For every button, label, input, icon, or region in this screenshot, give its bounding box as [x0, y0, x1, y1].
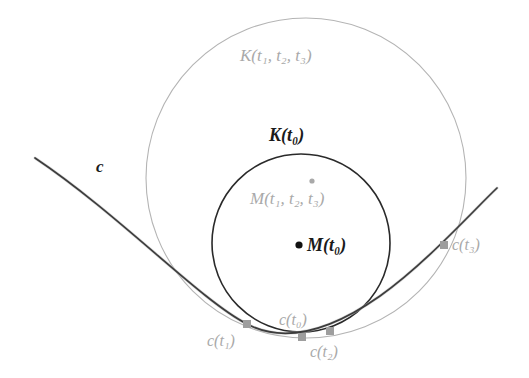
label-point-t2: c(t₂) — [310, 344, 338, 360]
label-center-outer-args: (t₁, t₂, t₃) — [264, 189, 324, 208]
label-center-outer-base: M — [250, 189, 264, 208]
label-point-t2-args: (t₂) — [317, 343, 338, 360]
label-center-inner-args: (t₀) — [323, 235, 346, 255]
point-marker-c-t0 — [298, 333, 306, 341]
label-point-t1-args: (t₁) — [214, 332, 235, 349]
point-marker-m-t1t2t3 — [309, 178, 314, 183]
label-point-t3: c(t₃) — [452, 237, 480, 253]
point-marker-c-t3 — [440, 241, 448, 249]
label-point-t0: c(t₀) — [279, 312, 307, 328]
label-center-inner-base: M — [307, 235, 323, 255]
label-curve-base: c — [96, 157, 104, 176]
label-circle-outer-base: K — [240, 46, 251, 65]
osculating-circle-figure: K(t₁, t₂, t₃) K(t₀) M(t₁, t₂, t₃) M(t₀) … — [0, 0, 529, 378]
point-marker-m-t0 — [295, 241, 302, 248]
label-circle-inner-args: (t₀) — [281, 125, 304, 145]
point-marker-c-t1 — [243, 320, 251, 328]
label-point-t3-args: (t₃) — [459, 236, 480, 253]
point-marker-c-t2 — [326, 327, 334, 335]
label-point-t1: c(t₁) — [207, 333, 235, 349]
label-circle-outer: K(t₁, t₂, t₃) — [240, 47, 312, 64]
curve-c — [35, 158, 497, 333]
curve-c-shadow — [35, 158, 497, 333]
label-center-inner: M(t₀) — [307, 236, 346, 254]
label-circle-outer-args: (t₁, t₂, t₃) — [251, 46, 311, 65]
circle-outer-k-t1t2t3 — [146, 18, 466, 338]
label-circle-inner-base: K — [269, 125, 281, 145]
label-curve: c — [96, 158, 104, 175]
label-point-t0-args: (t₀) — [286, 311, 307, 328]
label-center-outer: M(t₁, t₂, t₃) — [250, 190, 324, 207]
label-circle-inner: K(t₀) — [269, 126, 304, 144]
